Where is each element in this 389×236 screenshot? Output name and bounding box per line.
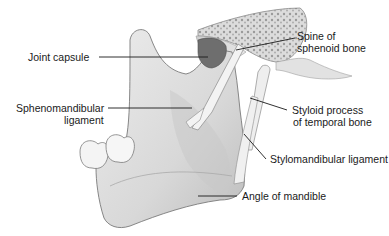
label-text: Angle of mandible — [242, 190, 326, 202]
label-text-line-1: Sphenomandibular — [16, 102, 104, 114]
label-spine-of-sphenoid-bone: Spine of sphenoid bone — [297, 30, 366, 54]
label-text-line-2: ligament — [16, 114, 104, 126]
label-joint-capsule: Joint capsule — [28, 51, 89, 63]
label-text: Joint capsule — [28, 51, 89, 63]
label-text-line-2: sphenoid bone — [297, 42, 366, 54]
label-text-line-1: Styloid process — [292, 104, 372, 116]
label-angle-of-mandible: Angle of mandible — [242, 190, 326, 202]
label-stylomandibular-ligament: Stylomandibular ligament — [270, 153, 388, 165]
label-sphenomandibular-ligament: Sphenomandibular ligament — [16, 102, 104, 126]
label-text-line-1: Spine of — [297, 30, 366, 42]
label-styloid-process: Styloid process of temporal bone — [292, 104, 372, 128]
anatomy-diagram: Joint capsule Sphenomandibular ligament … — [0, 0, 389, 236]
label-text-line-2: of temporal bone — [292, 116, 372, 128]
label-text: Stylomandibular ligament — [270, 153, 388, 165]
